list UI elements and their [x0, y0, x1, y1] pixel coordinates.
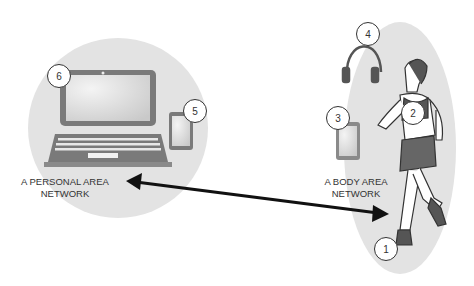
marker-1: 1: [374, 237, 398, 261]
pan-label-line2: NETWORK: [14, 188, 116, 200]
marker-5: 5: [183, 99, 207, 123]
personal-area-network-label: A PERSONAL AREA NETWORK: [14, 176, 116, 200]
marker-2: 2: [401, 101, 425, 125]
ban-label-line2: NETWORK: [314, 188, 398, 200]
marker-4: 4: [356, 22, 380, 46]
marker-3: 3: [326, 106, 350, 130]
marker-6: 6: [47, 64, 71, 88]
ban-label-line1: A BODY AREA: [314, 176, 398, 188]
network-diagram: A PERSONAL AREA NETWORK A BODY AREA NETW…: [0, 0, 474, 286]
pan-label-line1: A PERSONAL AREA: [14, 176, 116, 188]
diagram-graphics: [0, 0, 474, 286]
body-area-network-label: A BODY AREA NETWORK: [314, 176, 398, 200]
